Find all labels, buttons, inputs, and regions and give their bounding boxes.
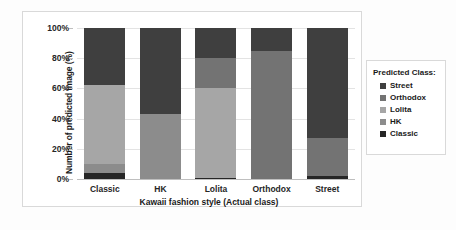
chart-plot-frame: Number of predicted image (%) 0%20%40%60… [22, 11, 362, 207]
legend-title: Predicted Class: [373, 68, 439, 77]
y-tick-label: 20% [52, 144, 69, 154]
legend-item-label: HK [390, 118, 402, 126]
x-tick-label: Orthodox [244, 184, 300, 198]
bar-slot [188, 28, 244, 179]
bar-segment[interactable] [307, 28, 348, 138]
bar-group [77, 28, 355, 179]
bar-segment[interactable] [251, 28, 292, 51]
y-tick-mark [69, 88, 73, 89]
legend-item-label: Orthodox [390, 94, 426, 102]
bar-segment[interactable] [195, 28, 236, 58]
legend-item-label: Classic [390, 130, 418, 138]
bar-segment[interactable] [84, 28, 125, 85]
legend-swatch-icon [380, 131, 386, 137]
x-axis-title: Kawaii fashion style (Actual class) [63, 197, 355, 207]
legend-swatch-icon [380, 119, 386, 125]
y-tick-label: 0% [57, 174, 69, 184]
y-tick-mark [69, 179, 73, 180]
stacked-bar[interactable] [140, 28, 181, 179]
legend-item[interactable]: Classic [380, 130, 439, 138]
bar-slot [299, 28, 355, 179]
stacked-bar[interactable] [195, 28, 236, 179]
bar-segment[interactable] [84, 164, 125, 173]
legend-swatch-icon [380, 95, 386, 101]
y-tick-label: 40% [52, 114, 69, 124]
x-tick-label: Lolita [188, 184, 244, 198]
bar-segment[interactable] [195, 58, 236, 88]
y-tick-mark [69, 119, 73, 120]
legend-item[interactable]: Orthodox [380, 94, 439, 102]
x-axis-ticks: ClassicHKLolitaOrthodoxStreet [77, 184, 355, 198]
bar-slot [133, 28, 189, 179]
bar-segment[interactable] [195, 178, 236, 180]
legend: Predicted Class: StreetOrthodoxLolitaHKC… [366, 60, 446, 155]
y-tick-mark [69, 149, 73, 150]
x-tick-label: HK [133, 184, 189, 198]
legend-swatch-icon [380, 83, 386, 89]
y-tick-label: 60% [52, 83, 69, 93]
legend-item[interactable]: Lolita [380, 106, 439, 114]
bar-segment[interactable] [195, 88, 236, 177]
legend-item[interactable]: Street [380, 82, 439, 90]
stacked-bar[interactable] [84, 28, 125, 179]
y-tick-label: 80% [52, 53, 69, 63]
gridline [77, 179, 355, 180]
legend-item[interactable]: HK [380, 118, 439, 126]
y-tick-mark [69, 58, 73, 59]
legend-items: StreetOrthodoxLolitaHKClassic [373, 82, 439, 138]
y-tick-label: 100% [47, 23, 69, 33]
x-tick-label: Classic [77, 184, 133, 198]
bar-segment[interactable] [251, 51, 292, 179]
bar-segment[interactable] [84, 85, 125, 164]
bar-segment[interactable] [140, 28, 181, 114]
y-tick-mark [69, 28, 73, 29]
legend-swatch-icon [380, 107, 386, 113]
legend-item-label: Lolita [390, 106, 411, 114]
legend-item-label: Street [390, 82, 413, 90]
bar-slot [244, 28, 300, 179]
bar-segment[interactable] [84, 173, 125, 179]
bar-segment[interactable] [307, 138, 348, 176]
bar-segment[interactable] [307, 176, 348, 179]
bar-slot [77, 28, 133, 179]
stacked-bar[interactable] [251, 28, 292, 179]
stacked-bar[interactable] [307, 28, 348, 179]
x-tick-label: Street [299, 184, 355, 198]
plot-area [77, 28, 355, 179]
chart-container: Number of predicted image (%) 0%20%40%60… [0, 0, 456, 230]
bar-segment[interactable] [140, 114, 181, 179]
y-axis-ticks: 0%20%40%60%80%100% [23, 28, 73, 179]
